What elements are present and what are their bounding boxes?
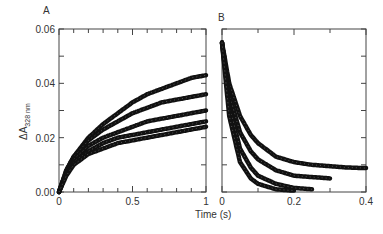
y-tick-label: 0.06 — [36, 24, 56, 35]
data-series-texture — [222, 43, 366, 169]
x-tick-label: 0.5 — [126, 196, 140, 207]
x-tick-label: 0 — [56, 196, 62, 207]
y-tick-label: 0.04 — [36, 78, 56, 89]
chart-figure: A B ΔA328 nm Time (s) 00.510.000.020.040… — [0, 0, 383, 234]
x-axis-label: Time (s) — [195, 209, 231, 220]
data-series — [59, 94, 206, 192]
x-tick-label: 1 — [203, 196, 209, 207]
data-series — [59, 111, 206, 193]
data-series — [222, 43, 366, 169]
x-tick-label: 0.2 — [287, 196, 301, 207]
data-series-texture — [59, 94, 206, 192]
panel-label-a: A — [43, 5, 50, 16]
plot-frame — [59, 29, 206, 192]
y-tick-label: 0.00 — [36, 187, 56, 198]
x-tick-label: 0.4 — [359, 196, 373, 207]
panel-b-plot: 00.20.4 — [219, 29, 373, 207]
x-tick-label: 0 — [219, 196, 225, 207]
panel-label-b: B — [218, 12, 225, 23]
y-tick-label: 0.02 — [36, 133, 56, 144]
panel-a-plot: 00.510.000.020.040.06 — [36, 24, 210, 207]
y-axis-label: ΔA328 nm — [18, 103, 31, 140]
